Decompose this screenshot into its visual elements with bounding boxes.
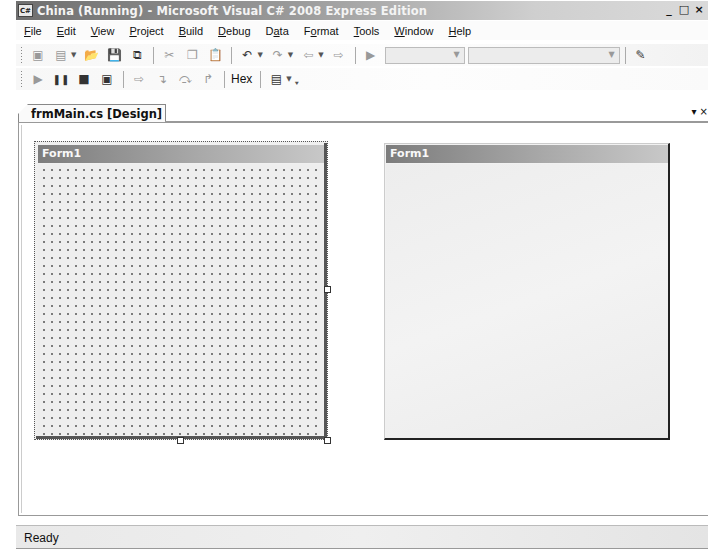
- toolbar-grip[interactable]: [20, 46, 23, 64]
- menu-help[interactable]: Help: [448, 25, 471, 37]
- tab-overflow-and-close[interactable]: ▾ ×: [691, 106, 708, 117]
- step-over-icon[interactable]: ⤼: [176, 70, 194, 88]
- navigate-forward-icon[interactable]: ⇨: [330, 46, 348, 64]
- toolbar-separator: [625, 47, 626, 64]
- designer-form1[interactable]: Form1: [34, 141, 328, 440]
- toolbar-separator: [153, 47, 154, 64]
- resize-handle-corner[interactable]: [324, 437, 331, 444]
- window-controls: _ □ ×: [662, 3, 706, 17]
- running-form1-window[interactable]: Form1: [384, 143, 670, 440]
- chevron-down-icon: ▼: [608, 50, 614, 59]
- menu-window[interactable]: Window: [394, 25, 433, 37]
- menu-file[interactable]: File: [24, 25, 42, 37]
- resize-handle-bottom[interactable]: [177, 437, 184, 444]
- tab-frmmain-design[interactable]: frmMain.cs [Design]🔒: [18, 104, 166, 123]
- window-title: China (Running) - Microsoft Visual C# 20…: [37, 4, 427, 18]
- show-next-statement-icon[interactable]: ⇨: [130, 70, 148, 88]
- start-debugging-icon[interactable]: ▶: [362, 46, 380, 64]
- solution-platforms-combo[interactable]: ▼: [468, 47, 620, 64]
- paste-icon[interactable]: 📋: [206, 46, 224, 64]
- toolbar-separator: [123, 71, 124, 88]
- debug-toolbar: ▶ ❚❚ ■ ▣ ⇨ ↴ ⤼ ↱ Hex ▤ ▼ ⯆: [16, 68, 708, 90]
- chevron-down-icon[interactable]: ▼: [257, 51, 262, 59]
- toolbar-grip[interactable]: [20, 70, 23, 88]
- chevron-down-icon[interactable]: ▼: [318, 51, 323, 59]
- menu-view[interactable]: View: [91, 25, 115, 37]
- menu-data[interactable]: Data: [266, 25, 289, 37]
- copy-icon[interactable]: ❐: [183, 46, 201, 64]
- step-into-icon[interactable]: ↴: [153, 70, 171, 88]
- chevron-down-icon[interactable]: ▼: [286, 75, 291, 83]
- menu-build[interactable]: Build: [179, 25, 203, 37]
- menu-debug[interactable]: Debug: [218, 25, 250, 37]
- breakpoints-window-icon[interactable]: ▤: [267, 70, 285, 88]
- chevron-down-icon: ▼: [453, 50, 459, 59]
- menu-format[interactable]: Format: [304, 25, 339, 37]
- solution-configurations-combo[interactable]: ▼: [385, 47, 465, 64]
- toolbar-separator: [355, 47, 356, 64]
- add-item-icon[interactable]: ▤: [52, 46, 70, 64]
- menu-bar: FileEditViewProjectBuildDebugDataFormatT…: [16, 21, 708, 40]
- resize-handle-right[interactable]: [324, 286, 331, 293]
- toolbar-options-icon[interactable]: ⯆: [294, 80, 300, 88]
- menu-edit[interactable]: Edit: [57, 25, 76, 37]
- navigate-backward-icon[interactable]: ⇦: [299, 46, 317, 64]
- toolbar-separator: [231, 47, 232, 64]
- restart-icon[interactable]: ▣: [98, 70, 116, 88]
- save-all-icon[interactable]: ⧉: [128, 46, 146, 64]
- continue-icon[interactable]: ▶: [29, 70, 47, 88]
- save-icon[interactable]: 💾: [105, 46, 123, 64]
- title-bar[interactable]: C# China (Running) - Microsoft Visual C#…: [16, 1, 708, 20]
- status-text: Ready: [24, 531, 59, 545]
- break-all-icon[interactable]: ❚❚: [52, 70, 70, 88]
- toolbar-separator: [260, 71, 261, 88]
- new-window-icon[interactable]: ✎: [632, 46, 650, 64]
- redo-icon[interactable]: ↷: [269, 46, 287, 64]
- undo-icon[interactable]: ↶: [238, 46, 256, 64]
- standard-toolbar: ▣ ▤ ▼ 📂 💾 ⧉ ✂ ❐ 📋 ↶ ▼ ↷ ▼ ⇦ ▼ ⇨ ▶ ▼ ▼ ✎: [16, 44, 708, 66]
- chevron-down-icon[interactable]: ▼: [288, 51, 293, 59]
- hex-toggle-button[interactable]: Hex: [231, 72, 252, 86]
- menu-project[interactable]: Project: [129, 25, 163, 37]
- menu-tools[interactable]: Tools: [354, 25, 380, 37]
- open-file-icon[interactable]: 📂: [82, 46, 100, 64]
- running-form-caption[interactable]: Form1: [386, 145, 668, 163]
- tab-label: frmMain.cs [Design]: [31, 107, 162, 121]
- close-button[interactable]: ×: [692, 3, 706, 17]
- status-bar: Ready: [16, 525, 708, 549]
- maximize-button[interactable]: □: [677, 3, 691, 17]
- running-form-client-area[interactable]: [386, 164, 668, 438]
- visual-csharp-icon: C#: [18, 4, 33, 17]
- cut-icon[interactable]: ✂: [160, 46, 178, 64]
- toolbar-separator: [224, 71, 225, 88]
- chevron-down-icon[interactable]: ▼: [71, 51, 76, 59]
- step-out-icon[interactable]: ↱: [199, 70, 217, 88]
- stop-debugging-icon[interactable]: ■: [75, 70, 93, 88]
- minimize-button[interactable]: _: [662, 3, 676, 17]
- form-grid[interactable]: [38, 164, 323, 435]
- new-project-icon[interactable]: ▣: [29, 46, 47, 64]
